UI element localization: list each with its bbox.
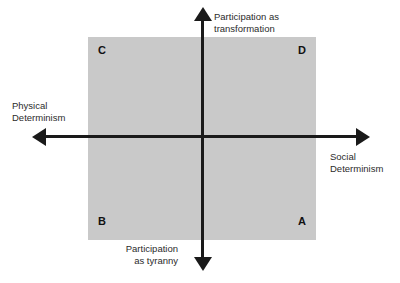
quadrant-label-b: B [98,216,106,227]
arrow-left-icon [32,128,46,146]
vertical-axis-line [201,16,204,265]
axis-label-bottom: Participation as tyranny [58,243,178,266]
quadrant-label-a: A [298,216,306,227]
axis-label-left: Physical Determinism [12,100,65,123]
quadrant-diagram: Participation as transformation Particip… [0,0,400,283]
quadrant-label-c: C [98,45,106,56]
quadrant-label-d: D [298,45,306,56]
axis-label-top: Participation as transformation [214,11,279,34]
axis-label-right: Social Determinism [330,151,383,174]
arrow-up-icon [194,7,212,21]
arrow-right-icon [356,128,370,146]
arrow-down-icon [194,257,212,271]
